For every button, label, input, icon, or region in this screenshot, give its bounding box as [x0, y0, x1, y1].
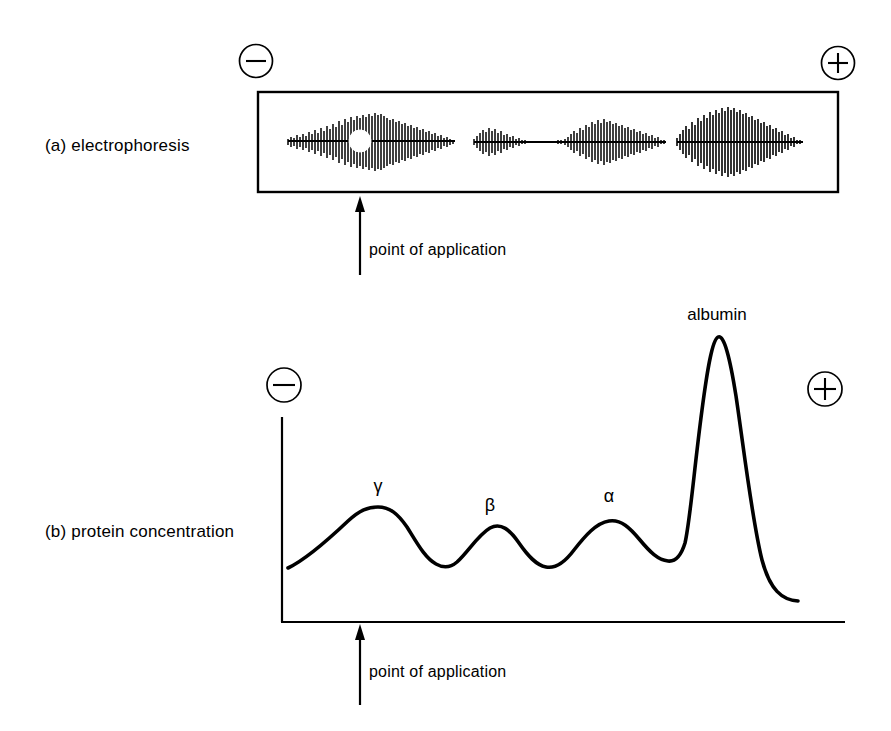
figure-root: (a) electrophoresis point of application… — [0, 0, 891, 731]
panel-b-point-of-application-arrow — [355, 624, 365, 705]
peak-label-beta: β — [485, 495, 495, 516]
panel-a-point-of-application-label: point of application — [369, 241, 506, 259]
panel-b-anode-icon — [808, 372, 842, 406]
panel-b-caption: (b) protein concentration — [45, 522, 234, 542]
panel-a-anode-icon — [822, 47, 855, 80]
protein-concentration-curve — [288, 337, 798, 601]
figure-canvas — [0, 0, 891, 731]
application-well-icon — [349, 130, 371, 152]
peak-label-alpha: α — [604, 486, 614, 507]
panel-b-cathode-icon — [267, 368, 301, 402]
peak-label-gamma: γ — [374, 476, 383, 497]
panel-a-caption: (a) electrophoresis — [45, 136, 190, 156]
panel-b-point-of-application-label: point of application — [369, 663, 506, 681]
peak-label-albumin: albumin — [687, 305, 747, 325]
panel-a-cathode-icon — [240, 45, 273, 78]
panel-a-point-of-application-arrow — [355, 196, 365, 275]
